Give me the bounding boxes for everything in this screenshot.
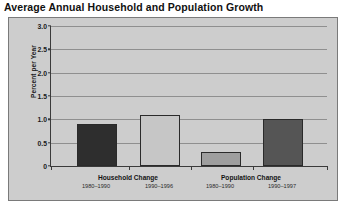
y-axis-tick-mark [48,72,51,73]
x-axis-tick-mark [253,166,254,170]
x-axis-tick-mark [327,166,328,170]
y-axis-tick-label: 3.0 [38,23,47,30]
page-title: Average Annual Household and Population … [4,1,263,13]
bar [140,115,180,166]
bar-period-label: 1990–1997 [242,183,322,189]
gridline [51,96,327,97]
gridline [51,49,327,50]
bar [201,152,241,166]
chart-figure: Average Annual Household and Population … [0,0,346,205]
x-axis-tick-mark [129,166,130,170]
x-axis-group-label: Population Change [191,174,311,181]
x-axis-group-label: Household Change [68,174,188,181]
y-axis-tick-label: 2.0 [38,69,47,76]
y-axis-tick-label: 1.5 [38,93,47,100]
gridline [51,26,327,27]
y-axis-tick-label: 1.0 [38,116,47,123]
y-axis-tick-mark [48,142,51,143]
y-axis-tick-label: 0.5 [38,139,47,146]
plot-frame: Percent per Year 00.51.01.52.02.53.0 198… [8,17,338,201]
y-axis-title: Percent per Year [30,36,37,108]
y-axis-tick-mark [48,25,51,26]
y-axis-tick-mark [48,119,51,120]
y-axis-tick-mark [48,95,51,96]
gridline [51,73,327,74]
bar [263,119,303,166]
y-axis-tick-label: 2.5 [38,46,47,53]
y-axis-tick-label: 0 [43,163,47,170]
x-axis-tick-mark [191,166,192,170]
plot-area: 00.51.01.52.02.53.0 [50,26,327,167]
x-axis-tick-mark [51,166,52,170]
bar [77,124,117,166]
y-axis-tick-mark [48,49,51,50]
